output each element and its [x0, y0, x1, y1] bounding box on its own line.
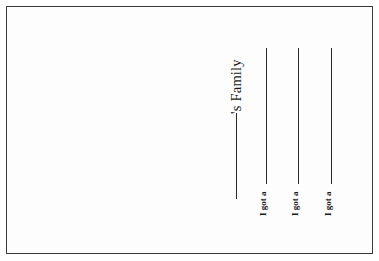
worksheet-title: 's Family — [228, 59, 245, 114]
answer-line-1 — [266, 48, 267, 184]
worksheet-page — [6, 6, 373, 254]
title-suffix: 's Family — [228, 59, 244, 114]
answer-line-2 — [298, 48, 299, 184]
prompt-label: I got a — [258, 192, 268, 217]
prompt-label: I got a — [290, 192, 300, 217]
prompt-label: I got a — [323, 192, 333, 217]
prompt-3: I got a — [323, 192, 333, 217]
prompt-2: I got a — [290, 192, 300, 217]
answer-line-3 — [331, 48, 332, 184]
name-blank-line — [236, 113, 237, 199]
prompt-1: I got a — [258, 192, 268, 217]
